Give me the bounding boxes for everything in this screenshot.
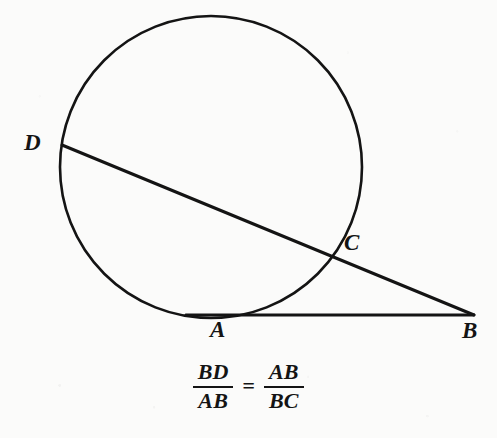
proportion-formula: BD AB = AB BC (0, 360, 497, 414)
circle-shape (60, 16, 362, 318)
point-label-a: A (210, 318, 225, 341)
point-label-d: D (24, 131, 41, 154)
point-label-b: B (462, 319, 477, 342)
point-label-c: C (344, 231, 359, 254)
equals-sign: = (242, 373, 255, 401)
fraction-numerator-ab: AB (266, 360, 302, 386)
fraction-denominator-ab: AB (195, 388, 231, 414)
fraction-denominator-bc: BC (266, 388, 302, 414)
fraction-ab-over-bc: AB BC (264, 360, 304, 414)
figure-page: D C A B BD AB = AB BC (0, 0, 497, 438)
fraction-numerator-bd: BD (195, 360, 232, 386)
fraction-bd-over-ab: BD AB (193, 360, 233, 414)
